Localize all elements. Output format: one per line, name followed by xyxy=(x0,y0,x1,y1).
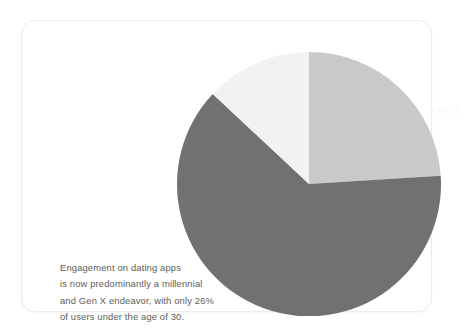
pie-slice-ages-18-29[interactable] xyxy=(309,52,441,184)
caption-line-4: of users under the age of 30. xyxy=(60,309,250,325)
caption-line-2: is now predominantly a millennial xyxy=(60,276,250,292)
chart-card: AGES 18–29 26% AGES 30–49 61% AGES Engag… xyxy=(21,20,432,312)
chart-caption: Engagement on dating apps is now predomi… xyxy=(60,260,250,326)
caption-line-3: and Gen X endeavor, with only 26% xyxy=(60,293,250,309)
caption-line-1: Engagement on dating apps xyxy=(60,260,250,276)
